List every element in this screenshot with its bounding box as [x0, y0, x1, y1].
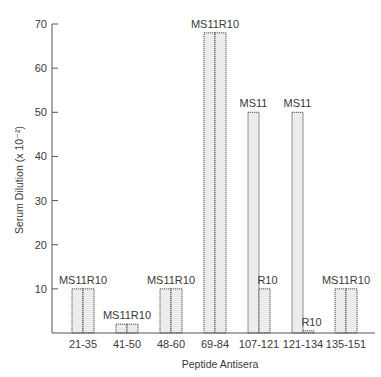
bar-r10: [171, 289, 182, 333]
y-tick-label: 30: [35, 195, 47, 207]
bar-r10: [346, 289, 357, 333]
x-tick-label: 121-134: [283, 338, 323, 350]
y-axis: 10203040506070: [35, 18, 58, 333]
bar-ms11: [204, 33, 215, 333]
x-tick-label: 21-35: [69, 338, 97, 350]
bar-r10: [83, 289, 94, 333]
bar-label-r10: R10: [257, 274, 277, 286]
bar-group: MS11R10: [240, 97, 278, 333]
y-tick-label: 10: [35, 283, 47, 295]
x-tick-label: 135-151: [326, 338, 366, 350]
bar-label: MS11R10: [322, 274, 370, 286]
x-axis-title: Peptide Antisera: [182, 358, 259, 370]
bar-ms11: [116, 324, 127, 333]
bar-group: MS11R10: [147, 274, 195, 333]
bar-label: MS11R10: [59, 274, 107, 286]
bar-label: MS11R10: [147, 274, 195, 286]
x-tick-label: 48-60: [157, 338, 185, 350]
bar-ms11: [292, 112, 303, 333]
bar-chart: 10203040506070 MS11R10MS11R10MS11R10MS11…: [0, 0, 381, 377]
bar-ms11: [335, 289, 346, 333]
bar-ms11: [160, 289, 171, 333]
y-axis-title: Serum Dilution (x 10⁻²): [13, 126, 25, 234]
bar-r10: [127, 324, 138, 333]
x-tick-label: 107-121: [239, 338, 279, 350]
bar-group: MS11R10: [191, 18, 239, 333]
y-tick-label: 50: [35, 106, 47, 118]
bar-label: MS11R10: [103, 309, 151, 321]
bar-group: MS11R10: [59, 274, 107, 333]
bar-r10: [259, 289, 270, 333]
bar-label-r10: R10: [301, 316, 321, 328]
y-tick-label: 40: [35, 150, 47, 162]
x-axis: 21-3541-5048-6069-84107-121121-134135-15…: [52, 333, 375, 350]
bar-label: MS11R10: [191, 18, 239, 30]
bar-r10: [215, 33, 226, 333]
y-tick-label: 20: [35, 239, 47, 251]
bar-group: MS11R10: [322, 274, 370, 333]
bar-group: MS11R10: [284, 97, 322, 333]
x-tick-label: 69-84: [201, 338, 229, 350]
y-tick-label: 60: [35, 62, 47, 74]
bar-label: MS11: [284, 97, 312, 109]
bars: MS11R10MS11R10MS11R10MS11R10MS11R10MS11R…: [59, 18, 370, 333]
bar-ms11: [248, 112, 259, 333]
x-tick-label: 41-50: [113, 338, 141, 350]
bar-group: MS11R10: [103, 309, 151, 333]
bar-label: MS11: [240, 97, 268, 109]
bar-ms11: [72, 289, 83, 333]
y-tick-label: 70: [35, 18, 47, 30]
